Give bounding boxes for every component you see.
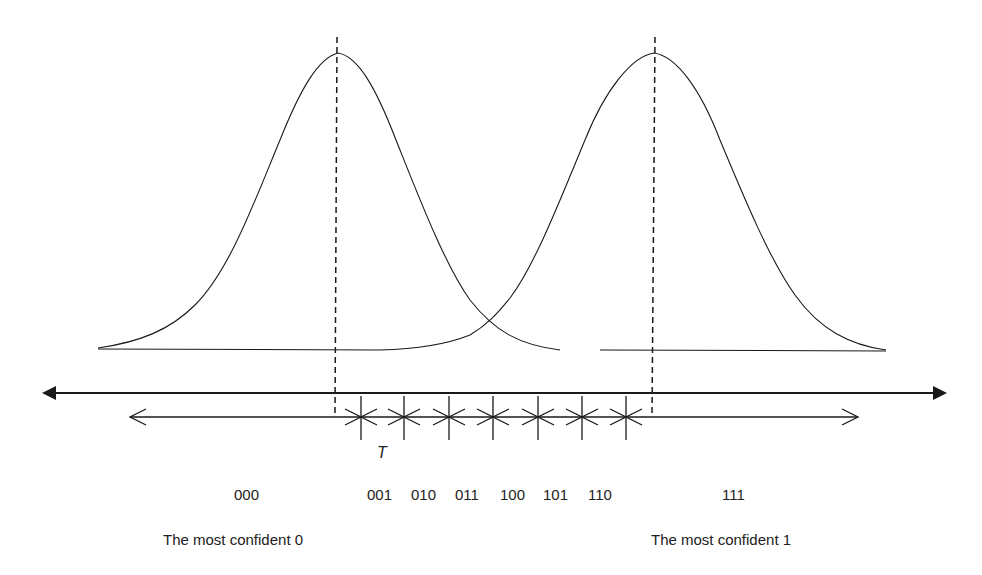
gaussian-curve-0 — [98, 53, 560, 350]
baseline-right — [600, 350, 886, 351]
interval-ticks — [345, 396, 642, 440]
code-label-100: 100 — [500, 486, 525, 503]
code-label-010: 010 — [411, 486, 436, 503]
axis-arrow-left-icon — [42, 386, 56, 400]
code-label-111: 111 — [722, 486, 745, 503]
code-label-000: 000 — [234, 486, 259, 503]
code-label-101: 101 — [543, 486, 568, 503]
baseline-left — [98, 349, 380, 350]
interval-label-t: T — [377, 444, 388, 461]
mean-line-0 — [335, 37, 337, 415]
gaussian-curve-1 — [380, 53, 886, 350]
code-label-110: 110 — [588, 486, 612, 503]
code-label-011: 011 — [455, 486, 479, 503]
code-label-001: 001 — [367, 486, 392, 503]
caption-most-confident-1: The most confident 1 — [651, 531, 791, 548]
axis-arrow-right-icon — [933, 386, 947, 400]
caption-most-confident-0: The most confident 0 — [163, 531, 303, 548]
mean-line-1 — [652, 37, 655, 415]
quantization-diagram: T 000 001 010 011 100 101 110 111 The mo… — [0, 0, 982, 575]
